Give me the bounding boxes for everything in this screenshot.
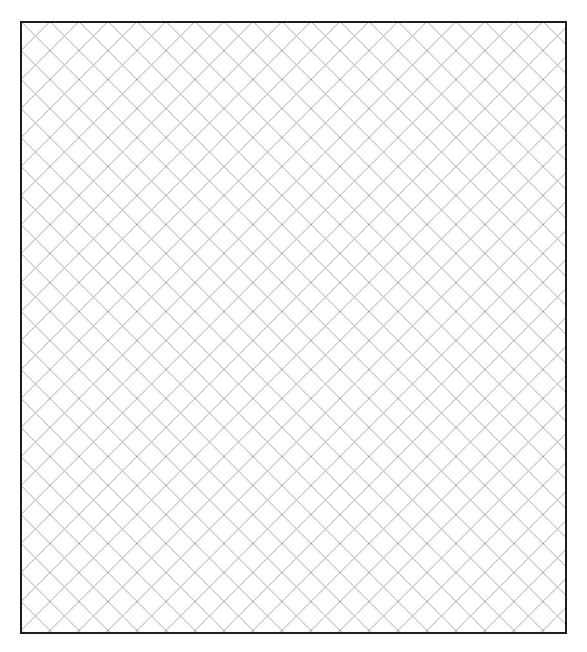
hatch-fill bbox=[22, 23, 565, 632]
cross-hatch-pattern bbox=[22, 23, 565, 632]
canvas: Cross-hatch pattern panel bbox=[0, 0, 587, 652]
hatched-panel: Cross-hatch pattern panel bbox=[20, 21, 567, 634]
